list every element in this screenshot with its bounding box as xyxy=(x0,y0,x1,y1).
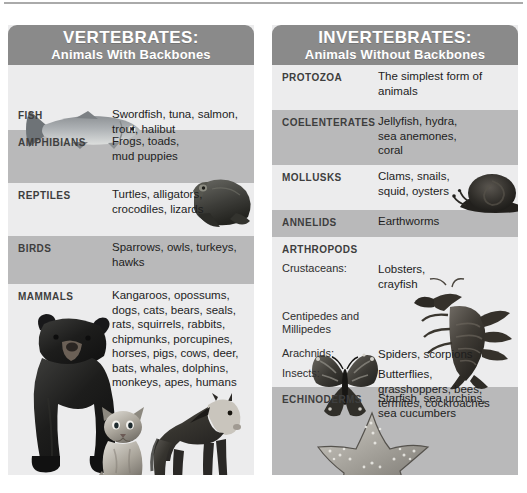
category-description-reptiles: Turtles, alligators, crocodiles, lizards xyxy=(112,187,254,216)
category-label-crustaceans: Crustaceans: xyxy=(282,262,347,275)
category-description-amphibians: Frogs, toads, mud puppies xyxy=(112,134,254,163)
category-label-echinoderms: ECHINODERMS xyxy=(282,393,362,406)
category-description-protozoa: The simplest form of animals xyxy=(378,69,518,98)
category-description-echinoderms: Starfish, sea urchins, sea cucumbers xyxy=(378,391,518,420)
category-label-coelenterates: COELENTERATES xyxy=(282,116,375,129)
category-label-mollusks: MOLLUSKS xyxy=(282,171,342,184)
category-label-amphibians: AMPHIBIANS xyxy=(18,136,86,149)
category-description-mammals: Kangaroos, opossums, dogs, cats, bears, … xyxy=(112,288,254,390)
category-label-arthropods: ARTHROPODS xyxy=(282,243,358,256)
category-description-arachnids: Spiders, scorpions xyxy=(378,347,518,362)
vertebrates-panel: VERTEBRATES: Animals With Backbones FISH… xyxy=(8,25,254,475)
vertebrates-title: VERTEBRATES: xyxy=(8,28,254,47)
category-label-insects: Insects: xyxy=(282,367,320,380)
category-label-annelids: ANNELIDS xyxy=(282,216,337,229)
vertebrates-subtitle: Animals With Backbones xyxy=(8,47,254,62)
invertebrates-panel: INVERTEBRATES: Animals Without Backbones… xyxy=(272,25,518,475)
category-description-coelenterates: Jellyfish, hydra, sea anemones, coral xyxy=(378,114,518,158)
vertebrates-header: VERTEBRATES: Animals With Backbones xyxy=(8,25,254,65)
category-description-fish: Swordfish, tuna, salmon, trout, halibut xyxy=(112,107,254,136)
invertebrates-subtitle: Animals Without Backbones xyxy=(272,47,518,62)
category-description-crustaceans: Lobsters, crayfish xyxy=(378,262,518,291)
top-divider-rule xyxy=(4,2,523,4)
category-label-arachnids: Arachnids: xyxy=(282,347,334,360)
category-label-protozoa: PROTOZOA xyxy=(282,71,342,84)
chart-page: VERTEBRATES: Animals With Backbones FISH… xyxy=(0,0,527,493)
category-description-birds: Sparrows, owls, turkeys, hawks xyxy=(112,240,254,269)
category-description-mollusks: Clams, snails, squid, oysters xyxy=(378,169,518,198)
invertebrates-header: INVERTEBRATES: Animals Without Backbones xyxy=(272,25,518,65)
category-label-fish: FISH xyxy=(18,109,43,122)
invertebrates-title: INVERTEBRATES: xyxy=(272,28,518,47)
category-label-reptiles: REPTILES xyxy=(18,189,71,202)
category-label-birds: BIRDS xyxy=(18,242,51,255)
category-label-mammals: MAMMALS xyxy=(18,290,73,303)
category-label-centipedes-millipedes: Centipedes and Millipedes xyxy=(282,310,359,336)
category-description-annelids: Earthworms xyxy=(378,214,518,229)
